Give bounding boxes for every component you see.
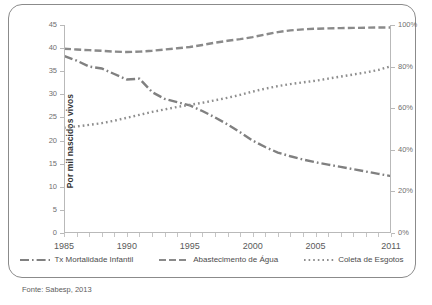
y-axis-left-tick [60, 117, 64, 118]
y-axis-right-label: 20% [398, 187, 413, 195]
y-axis-left-label: 30 [49, 90, 57, 98]
chart-figure: Por mil nascidos vivos 05101520253035404… [8, 4, 416, 278]
y-axis-left-tick [60, 94, 64, 95]
y-axis-left-label: 45 [49, 21, 57, 29]
y-axis-right-tick [391, 191, 395, 192]
y-axis-left-tick [60, 25, 64, 26]
x-axis-tick [89, 233, 90, 237]
legend-item-mortalidade[interactable]: Tx Mortalidade Infantil [20, 255, 133, 264]
x-axis-label: 2005 [306, 241, 326, 251]
y-axis-right-label: 80% [398, 63, 413, 71]
legend-swatch-esgotos [304, 256, 334, 264]
x-axis-tick [177, 233, 178, 237]
x-axis-tick [77, 233, 78, 237]
y-axis-left-label: 10 [49, 183, 57, 191]
y-axis-right-line [390, 25, 391, 233]
legend-label-mortalidade: Tx Mortalidade Infantil [54, 255, 133, 264]
x-axis-tick [102, 233, 103, 237]
legend-item-esgotos[interactable]: Coleta de Esgotos [304, 255, 403, 264]
x-axis-label: 1985 [54, 241, 74, 251]
y-axis-left-label: 5 [53, 206, 57, 214]
legend-swatch-mortalidade [20, 256, 50, 264]
y-axis-right-label: 100% [398, 21, 417, 29]
x-axis-tick [127, 233, 128, 237]
x-axis-tick [114, 233, 115, 237]
x-axis-tick [391, 233, 392, 237]
y-axis-right-label: 40% [398, 146, 413, 154]
legend-swatch-agua [159, 256, 189, 264]
y-axis-left-line [64, 25, 65, 233]
y-axis-left-tick [60, 141, 64, 142]
x-axis-tick [152, 233, 153, 237]
x-axis-tick [139, 233, 140, 237]
y-axis-left-label: 0 [53, 229, 57, 237]
y-axis-left-label: 25 [49, 113, 57, 121]
y-axis-right-label: 0% [398, 229, 409, 237]
y-axis-left-tick [60, 71, 64, 72]
y-axis-left-tick [60, 187, 64, 188]
y-axis-left-tick [60, 164, 64, 165]
x-axis-tick [353, 233, 354, 237]
x-axis-tick [253, 233, 254, 237]
x-axis-tick [316, 233, 317, 237]
y-axis-left-label: 15 [49, 160, 57, 168]
series-line-coleta-de-esgotos [64, 66, 391, 128]
y-axis-left-label: 40 [49, 44, 57, 52]
x-axis-tick [328, 233, 329, 237]
series-lines [64, 25, 391, 233]
x-axis-tick [228, 233, 229, 237]
x-axis-tick [240, 233, 241, 237]
x-axis-label: 1990 [117, 241, 137, 251]
y-axis-right-tick [391, 150, 395, 151]
y-axis-right-tick [391, 25, 395, 26]
x-axis-label: 1995 [180, 241, 200, 251]
x-axis-tick [366, 233, 367, 237]
x-axis-label: 2000 [243, 241, 263, 251]
y-axis-right-label: 60% [398, 104, 413, 112]
y-axis-right-tick [391, 67, 395, 68]
series-line-abastecimento-de-gua [64, 28, 391, 53]
legend-item-agua[interactable]: Abastecimento de Água [159, 255, 278, 264]
x-axis-tick [265, 233, 266, 237]
series-line-tx-mortalidade-infantil [64, 56, 391, 176]
x-axis-tick [278, 233, 279, 237]
y-axis-left-tick [60, 210, 64, 211]
x-axis-label: 2011 [381, 241, 400, 251]
plot-area: 051015202530354045 0%20%40%60%80%100% 19… [64, 25, 391, 233]
y-axis-right-tick [391, 108, 395, 109]
y-axis-left-tick [60, 48, 64, 49]
x-axis-tick [341, 233, 342, 237]
x-axis-tick [165, 233, 166, 237]
x-axis-tick [303, 233, 304, 237]
x-axis-tick [378, 233, 379, 237]
y-axis-left-label: 35 [49, 67, 57, 75]
x-axis-tick [190, 233, 191, 237]
x-axis-tick [202, 233, 203, 237]
x-axis-tick [64, 233, 65, 237]
chart-legend: Tx Mortalidade Infantil Abastecimento de… [9, 255, 415, 264]
legend-label-agua: Abastecimento de Água [193, 255, 278, 264]
source-note: Fonte: Sabesp, 2013 [22, 285, 92, 294]
legend-label-esgotos: Coleta de Esgotos [338, 255, 403, 264]
y-axis-left-label: 20 [49, 137, 57, 145]
x-axis-tick [215, 233, 216, 237]
x-axis-tick [290, 233, 291, 237]
